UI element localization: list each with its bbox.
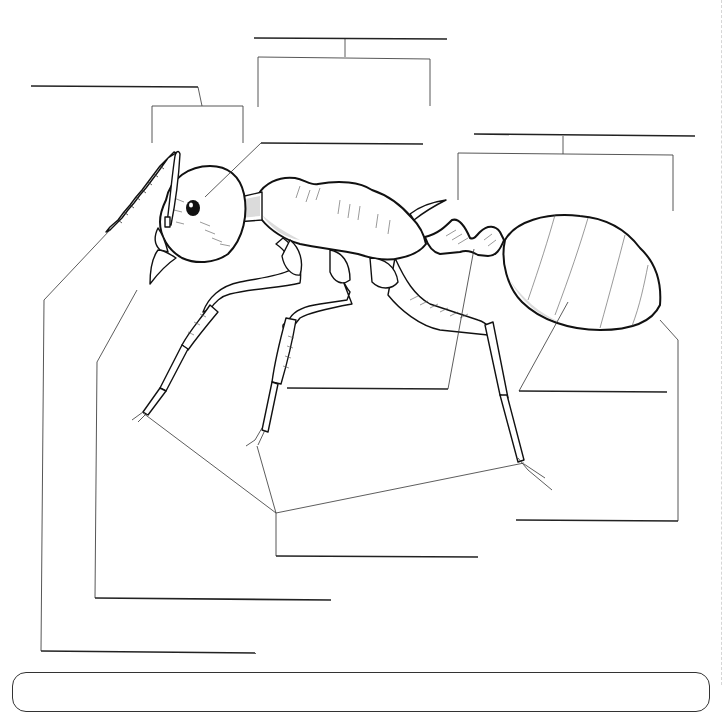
- blank-stinger[interactable]: [516, 520, 678, 521]
- blank-head-group[interactable]: [254, 38, 447, 39]
- gaster: [504, 215, 661, 330]
- blank-abdomen-group[interactable]: [474, 134, 695, 136]
- leader-lines: [41, 39, 678, 651]
- mesosoma: [256, 178, 446, 288]
- blank-eye[interactable]: [261, 143, 423, 144]
- blank-legs[interactable]: [276, 556, 478, 557]
- blank-antenna[interactable]: [41, 651, 256, 653]
- blank-petiole[interactable]: [287, 388, 448, 389]
- waist-nodes: [425, 220, 504, 256]
- label-blanks: [31, 38, 695, 653]
- page-margin-rule: [721, 0, 722, 685]
- compound-eye: [186, 200, 200, 216]
- ant-illustration: [106, 152, 660, 490]
- blank-mandible[interactable]: [95, 598, 331, 600]
- mandible: [150, 250, 176, 284]
- blank-antenna-group[interactable]: [31, 86, 198, 87]
- blank-gaster[interactable]: [519, 391, 667, 392]
- answer-box[interactable]: [12, 672, 710, 712]
